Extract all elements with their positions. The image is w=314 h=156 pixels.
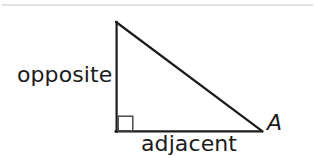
- right-angle-marker-icon: [118, 116, 133, 131]
- adjacent-side-label: adjacent: [141, 133, 237, 155]
- angle-a-label: A: [267, 112, 282, 134]
- figure-canvas: opposite adjacent A: [0, 0, 314, 156]
- opposite-side-label: opposite: [17, 64, 112, 86]
- hypotenuse-line: [116, 22, 263, 131]
